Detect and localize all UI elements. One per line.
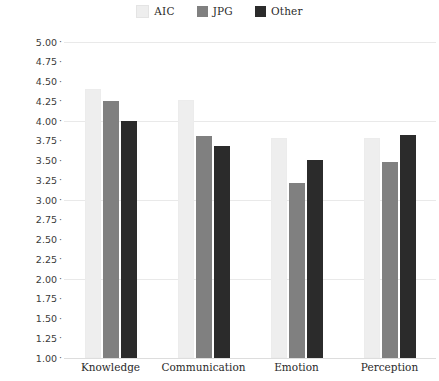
y-axis-tick-marker-icon: · (57, 355, 64, 361)
y-axis-tick-label: 2.25 (36, 254, 57, 265)
y-axis-tick: 3.50· (0, 155, 64, 167)
y-axis-tick-marker-icon: · (57, 79, 64, 85)
y-axis-tick-marker-icon: · (57, 118, 64, 124)
y-axis-tick-marker-icon: · (57, 316, 64, 322)
y-axis-tick-label: 4.75 (36, 56, 57, 67)
y-axis-tick-label: 1.00 (36, 353, 57, 364)
bar[interactable] (178, 100, 194, 358)
y-axis-tick: 4.75· (0, 56, 64, 68)
y-axis-tick-label: 5.00 (36, 37, 57, 48)
x-axis-tick-label: Knowledge (64, 361, 157, 381)
bar-group (250, 42, 343, 358)
grouped-bar-chart: AICJPGOther 5.00·4.75·4.50·4.25·4.00·3.7… (0, 0, 439, 381)
bar[interactable] (400, 135, 416, 358)
x-axis-tick-label: Communication (157, 361, 250, 381)
x-axis-tick-label: Perception (343, 361, 436, 381)
y-axis-tick-marker-icon: · (57, 59, 64, 65)
bar[interactable] (307, 160, 323, 358)
y-axis-tick: 4.25· (0, 95, 64, 107)
plot-area (64, 42, 436, 358)
bar-group-bars (250, 42, 343, 358)
y-axis-tick: 4.00· (0, 115, 64, 127)
y-axis-tick-marker-icon: · (57, 237, 64, 243)
y-axis-tick-label: 2.50 (36, 234, 57, 245)
legend-label: Other (271, 5, 303, 17)
y-axis-tick-marker-icon: · (57, 276, 64, 282)
axis-baseline (64, 358, 436, 359)
bar-group-bars (343, 42, 436, 358)
x-axis-tick-label: Emotion (250, 361, 343, 381)
y-axis-tick: 3.00· (0, 194, 64, 206)
y-axis-tick-marker-icon: · (57, 39, 64, 45)
y-axis-tick-label: 3.00 (36, 195, 57, 206)
y-axis-tick: 2.25· (0, 253, 64, 265)
y-axis-tick: 3.75· (0, 135, 64, 147)
y-axis-tick-marker-icon: · (57, 197, 64, 203)
y-axis-tick-label: 4.25 (36, 96, 57, 107)
y-axis-tick-label: 2.75 (36, 214, 57, 225)
y-axis-tick-label: 3.50 (36, 155, 57, 166)
bar-group (64, 42, 157, 358)
legend-label: AIC (154, 5, 174, 17)
legend-label: JPG (213, 5, 233, 17)
y-axis-tick-marker-icon: · (57, 177, 64, 183)
y-axis-tick-marker-icon: · (57, 158, 64, 164)
y-axis-tick-marker-icon: · (57, 98, 64, 104)
y-axis-tick: 5.00· (0, 36, 64, 48)
y-axis-tick: 4.50· (0, 76, 64, 88)
bar-group (157, 42, 250, 358)
x-axis: KnowledgeCommunicationEmotionPerception (64, 361, 436, 381)
y-axis-tick-label: 3.25 (36, 175, 57, 186)
y-axis-tick-label: 1.50 (36, 313, 57, 324)
legend-item[interactable]: JPG (197, 5, 233, 17)
bar[interactable] (85, 89, 101, 358)
y-axis-tick-label: 3.75 (36, 135, 57, 146)
legend-item[interactable]: AIC (136, 5, 174, 18)
y-axis-tick: 2.75· (0, 214, 64, 226)
bar[interactable] (196, 136, 212, 358)
y-axis-tick-label: 1.75 (36, 293, 57, 304)
y-axis: 5.00·4.75·4.50·4.25·4.00·3.75·3.50·3.25·… (0, 0, 64, 381)
bar[interactable] (121, 121, 137, 358)
y-axis-tick-label: 4.00 (36, 116, 57, 127)
bar-group (343, 42, 436, 358)
y-axis-tick-marker-icon: · (57, 138, 64, 144)
y-axis-tick: 1.50· (0, 313, 64, 325)
bar[interactable] (271, 138, 287, 358)
bar[interactable] (364, 138, 380, 358)
y-axis-tick: 1.75· (0, 293, 64, 305)
y-axis-tick-label: 4.50 (36, 76, 57, 87)
bar-group-bars (157, 42, 250, 358)
y-axis-tick-marker-icon: · (57, 335, 64, 341)
chart-legend: AICJPGOther (0, 1, 439, 21)
legend-item[interactable]: Other (255, 5, 303, 17)
bar[interactable] (214, 146, 230, 358)
bar[interactable] (382, 162, 398, 358)
y-axis-tick-label: 2.00 (36, 274, 57, 285)
y-axis-tick: 3.25· (0, 174, 64, 186)
y-axis-tick: 2.00· (0, 273, 64, 285)
legend-swatch-icon (136, 5, 149, 18)
y-axis-tick: 1.25· (0, 332, 64, 344)
bar-group-bars (64, 42, 157, 358)
y-axis-tick-marker-icon: · (57, 296, 64, 302)
y-axis-tick-marker-icon: · (57, 256, 64, 262)
legend-swatch-icon (197, 6, 208, 17)
bar[interactable] (289, 183, 305, 358)
y-axis-tick: 1.00· (0, 352, 64, 364)
bar-groups (64, 42, 436, 358)
y-axis-tick: 2.50· (0, 234, 64, 246)
bar[interactable] (103, 101, 119, 358)
y-axis-tick-marker-icon: · (57, 217, 64, 223)
legend-swatch-icon (255, 6, 266, 17)
y-axis-tick-label: 1.25 (36, 333, 57, 344)
